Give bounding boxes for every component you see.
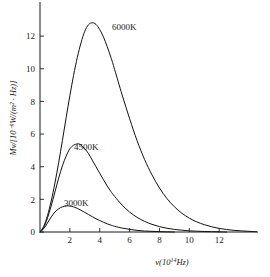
y-tick-label: 8 — [31, 97, 36, 107]
y-tick-label: 6 — [31, 129, 36, 139]
y-axis-ticks: 024681012 — [26, 31, 44, 237]
svg-text:ν(1014Hz): ν(1014Hz) — [155, 257, 189, 267]
x-axis-title-base: ν(10 — [155, 257, 171, 267]
y-tick-label: 2 — [31, 195, 36, 205]
y-tick-label: 4 — [31, 162, 36, 172]
blackbody-spectral-exitance-figure: 24681012 024681012 6000K4500K3000K ν(101… — [0, 0, 270, 277]
x-tick-label: 8 — [157, 235, 162, 245]
x-axis-title: ν(1014Hz) — [155, 257, 189, 267]
x-tick-label: 6 — [127, 235, 132, 245]
curve-label-4500K: 4500K — [74, 142, 99, 152]
y-tick-label: 12 — [26, 31, 35, 41]
y-tick-label: 10 — [26, 64, 36, 74]
x-axis-ticks: 24681012 — [68, 228, 224, 245]
x-axis-title-tail: Hz) — [175, 257, 188, 267]
curve-label-3000K: 3000K — [64, 198, 89, 208]
x-tick-label: 4 — [97, 235, 102, 245]
curve-annotations-group: 6000K4500K3000K — [64, 22, 137, 208]
y-tick-label: 0 — [31, 227, 36, 237]
y-axis-title: Mν/[10⁻⁹W/(m² · Hz)] — [8, 81, 18, 157]
x-tick-label: 10 — [185, 235, 195, 245]
curve-label-6000K: 6000K — [112, 22, 137, 32]
chart-canvas: 24681012 024681012 6000K4500K3000K ν(101… — [0, 0, 270, 277]
x-tick-label: 2 — [68, 235, 73, 245]
curve-4500K — [40, 144, 227, 232]
y-axis-title-text: Mν/[10⁻⁹W/(m² · Hz)] — [8, 81, 18, 157]
x-tick-label: 12 — [215, 235, 224, 245]
curve-3000K — [40, 206, 174, 232]
